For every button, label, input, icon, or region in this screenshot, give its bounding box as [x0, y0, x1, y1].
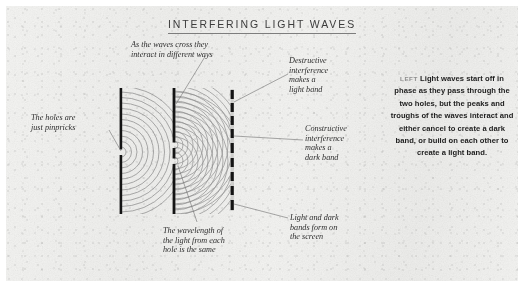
leader-holes — [109, 130, 121, 151]
annotation-destructive: Destructive interference makes a light b… — [289, 56, 359, 94]
annotation-holes: The holes are just pinpricks — [31, 113, 115, 132]
caption-lead-label: LEFT — [400, 75, 418, 82]
annotation-crossing: As the waves cross they interact in diff… — [131, 40, 251, 59]
caption-text: Light waves start off in phase as they p… — [391, 74, 514, 157]
leader-constructive — [234, 136, 303, 140]
annotation-constructive: Constructive interference makes a dark b… — [305, 124, 377, 162]
projection-screen — [231, 89, 234, 211]
annotation-wavelength: The wavelength of the light from each ho… — [163, 226, 259, 255]
leader-destructive — [234, 74, 288, 102]
leader-crossing — [176, 55, 206, 104]
figure-page: INTERFERING LIGHT WAVES — [0, 0, 524, 291]
annotation-bands: Light and dark bands form on the screen — [290, 213, 370, 242]
side-caption: LEFT Light waves start off in phase as t… — [388, 73, 516, 160]
double-pinhole-barrier — [173, 88, 176, 214]
leader-bands — [234, 204, 288, 218]
